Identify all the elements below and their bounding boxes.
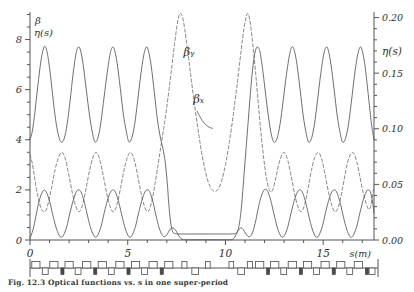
lattice-element-quad-focusing bbox=[165, 262, 173, 269]
lattice-element-quad-defocusing bbox=[108, 268, 114, 275]
annotation-beta-x-leader bbox=[197, 111, 213, 129]
right-axis-tick-label: 0.20 bbox=[382, 12, 403, 23]
lattice-element-bend bbox=[267, 268, 270, 275]
lattice-element-quad-defocusing bbox=[347, 268, 353, 275]
lattice-element-quad-defocusing bbox=[42, 268, 48, 275]
lattice-element-quad-focusing bbox=[247, 262, 252, 269]
lattice-element-quad-focusing bbox=[131, 262, 139, 269]
lattice-element-quad-defocusing bbox=[281, 268, 287, 275]
lattice-element-quad-focusing bbox=[288, 262, 296, 269]
beta-function-chart: 024680.000.050.100.150.20051015s(m)βη(s)… bbox=[0, 0, 414, 292]
lattice-element-quad-focusing bbox=[65, 262, 73, 269]
left-axis-tick-label: 2 bbox=[15, 184, 22, 195]
lattice-element-bend bbox=[365, 268, 368, 275]
lattice-element-quad-defocusing bbox=[192, 268, 199, 275]
lattice-element-quad-defocusing bbox=[238, 268, 245, 275]
lattice-element-quad-focusing bbox=[256, 262, 264, 269]
series-eta bbox=[30, 189, 374, 239]
right-axis-tick-label: 0.15 bbox=[382, 68, 403, 79]
x-axis-tick-label: 0 bbox=[27, 247, 34, 259]
lattice-element-quad-defocusing bbox=[314, 268, 320, 275]
figure-caption: Fig. 12.3 Optical functions vs. s in one… bbox=[8, 278, 228, 287]
series-beta_y bbox=[30, 13, 374, 212]
lattice-element-quad-focusing bbox=[182, 262, 187, 269]
lattice-element-bend bbox=[299, 268, 302, 275]
lattice-element-quad-defocusing bbox=[369, 268, 375, 275]
lattice-element-bend bbox=[332, 268, 335, 275]
lattice-element-bend bbox=[61, 268, 64, 275]
right-axis-title-eta: η(s) bbox=[382, 45, 402, 57]
lattice-element-quad-focusing bbox=[337, 262, 345, 269]
left-axis-tick-label: 8 bbox=[16, 34, 22, 45]
lattice-element-bend bbox=[94, 268, 97, 275]
lattice-element-quad-focusing bbox=[149, 262, 157, 269]
lattice-element-quad-focusing bbox=[83, 262, 91, 269]
lattice-element-quad-focusing bbox=[321, 262, 329, 269]
lattice-element-quad-focusing bbox=[116, 262, 124, 269]
series-beta_x bbox=[30, 46, 374, 234]
left-axis-title-beta: β bbox=[34, 15, 41, 26]
lattice-element-quad-focusing bbox=[271, 262, 279, 269]
right-axis-tick-label: 0.05 bbox=[382, 179, 403, 190]
left-axis-tick-label: 6 bbox=[16, 84, 23, 95]
left-axis-tick-label: 4 bbox=[15, 134, 22, 145]
lattice-element-quad-focusing bbox=[354, 262, 362, 269]
lattice-element-bend bbox=[160, 268, 163, 275]
annotation-beta-y: βᵧ bbox=[182, 45, 195, 59]
lattice-element-quad-focusing bbox=[32, 262, 40, 269]
annotation-beta-x: βₓ bbox=[192, 92, 204, 106]
x-axis-tick-label: 5 bbox=[124, 247, 131, 259]
x-axis-label: s(m) bbox=[350, 248, 372, 259]
x-axis-tick-label: 15 bbox=[316, 247, 330, 259]
lattice-element-quad-focusing bbox=[98, 262, 106, 269]
right-axis-tick-label: 0.10 bbox=[382, 123, 403, 134]
lattice-element-quad-defocusing bbox=[75, 268, 81, 275]
lattice-element-bend bbox=[127, 268, 130, 275]
lattice-element-quad-focusing bbox=[229, 262, 234, 269]
left-axis-title-eta: η(s) bbox=[34, 27, 53, 38]
lattice-element-quad-defocusing bbox=[142, 268, 148, 275]
x-axis-tick-label: 10 bbox=[219, 247, 233, 259]
right-axis-tick-label: 0.00 bbox=[382, 235, 403, 246]
lattice-element-quad-focusing bbox=[206, 262, 211, 269]
figure-panel: 024680.000.050.100.150.20051015s(m)βη(s)… bbox=[0, 0, 414, 292]
lattice-element-quad-focusing bbox=[50, 262, 58, 269]
lattice-element-quad-focusing bbox=[303, 262, 311, 269]
left-axis-tick-label: 0 bbox=[16, 235, 23, 246]
